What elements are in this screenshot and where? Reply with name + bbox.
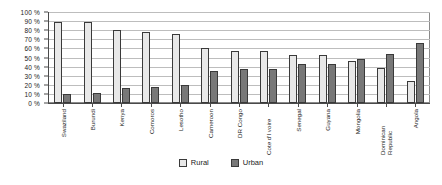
y-axis-tick-label: 20 %	[24, 81, 40, 88]
y-axis-tick-label: 50 %	[24, 54, 40, 61]
x-axis-tick-mark	[63, 104, 64, 107]
x-axis-tick-mark	[180, 104, 181, 107]
y-axis-tick-label: 40 %	[24, 63, 40, 70]
legend-label-urban: Urban	[243, 158, 263, 167]
x-axis-tick-mark	[386, 104, 387, 107]
bar-group	[48, 12, 77, 103]
bar-rural	[377, 68, 385, 103]
x-axis-label-cell: Lesotho	[166, 104, 195, 152]
x-axis-tick-mark	[298, 104, 299, 107]
x-axis-label-cell: Cote d'I voire	[254, 104, 283, 152]
y-axis-tick-label: 0 %	[28, 100, 40, 107]
x-axis-label-cell: Kenya	[107, 104, 136, 152]
x-axis-label-cell: DR Congo	[224, 104, 253, 152]
bar-rural	[407, 81, 415, 103]
bar-rural	[172, 34, 180, 103]
x-axis-tick-mark	[121, 104, 122, 107]
x-axis-tick-mark	[327, 104, 328, 107]
bar-rural	[201, 48, 209, 103]
y-axis-tick-label: 10 %	[24, 90, 40, 97]
x-axis-label-cell: Mongolia	[342, 104, 371, 152]
bar-group	[313, 12, 342, 103]
legend-label-rural: Rural	[191, 158, 209, 167]
x-axis-tick-mark	[210, 104, 211, 107]
bar-group	[342, 12, 371, 103]
x-axis-tick-label: Cameroon	[206, 109, 213, 138]
x-axis-tick-mark	[239, 104, 240, 107]
bar-rural	[319, 55, 327, 103]
y-axis: 0 %10 %20 %30 %40 %50 %60 %70 %80 %90 %1…	[0, 12, 48, 103]
bar-urban	[210, 71, 218, 103]
x-axis-tick-label: Senegal	[294, 109, 301, 132]
x-axis-tick-mark	[268, 104, 269, 107]
bar-urban	[386, 54, 394, 103]
x-axis-tick-label: Comoros	[147, 109, 154, 134]
x-axis-tick-label: Burundi	[89, 109, 96, 130]
legend-item-urban: Urban	[231, 158, 263, 167]
bar-urban	[328, 64, 336, 103]
x-axis-label-cell: Angola	[401, 104, 430, 152]
bar-rural	[289, 55, 297, 103]
bar-group	[224, 12, 253, 103]
bar-group	[107, 12, 136, 103]
x-axis-tick-mark	[92, 104, 93, 107]
bar-group	[77, 12, 106, 103]
bar-group	[166, 12, 195, 103]
x-axis-label-cell: Swaziland	[48, 104, 77, 152]
bar-rural	[113, 30, 121, 103]
bar-rural	[348, 61, 356, 103]
x-axis-tick-label: Angola	[412, 109, 419, 128]
y-axis-tick-label: 70 %	[24, 36, 40, 43]
x-axis-tick-label: Guyana	[324, 109, 331, 131]
x-axis-tick-label: Swaziland	[59, 109, 66, 137]
x-axis-tick-label: DR Congo	[236, 109, 243, 138]
bar-urban	[151, 87, 159, 103]
x-axis-tick-mark	[357, 104, 358, 107]
chart-legend: Rural Urban	[0, 158, 442, 167]
bar-urban	[181, 85, 189, 103]
bar-urban	[122, 88, 130, 103]
y-axis-tick-label: 30 %	[24, 72, 40, 79]
x-axis-label-cell: Senegal	[283, 104, 312, 152]
bar-series-layer	[48, 12, 430, 103]
y-axis-tick-label: 60 %	[24, 45, 40, 52]
legend-swatch-urban-icon	[231, 159, 239, 167]
x-axis-label-cell: Cameroon	[195, 104, 224, 152]
x-axis-category-labels: SwazilandBurundiKenyaComorosLesothoCamer…	[48, 104, 430, 152]
bar-urban	[93, 93, 101, 103]
bar-group	[136, 12, 165, 103]
x-axis-label-cell: Comoros	[136, 104, 165, 152]
x-axis-tick-label: Kenya	[118, 109, 125, 127]
x-axis-tick-label: Mongolia	[353, 109, 360, 134]
x-axis-tick-label: Lesotho	[177, 109, 184, 131]
x-axis-tick-mark	[415, 104, 416, 107]
bar-rural	[54, 22, 62, 103]
bar-group	[195, 12, 224, 103]
bar-group	[283, 12, 312, 103]
x-axis-label-cell: Dominican Republic	[371, 104, 400, 152]
x-axis-tick-mark	[151, 104, 152, 107]
bar-chart-figure: 0 %10 %20 %30 %40 %50 %60 %70 %80 %90 %1…	[0, 0, 442, 185]
bar-rural	[260, 51, 268, 103]
x-axis-label-cell: Burundi	[77, 104, 106, 152]
bar-urban	[63, 94, 71, 103]
legend-item-rural: Rural	[179, 158, 209, 167]
y-axis-tick-label: 100 %	[21, 9, 40, 16]
bar-urban	[240, 69, 248, 103]
bar-urban	[298, 64, 306, 103]
bar-urban	[269, 69, 277, 103]
bar-urban	[416, 43, 424, 103]
y-axis-tick-label: 90 %	[24, 18, 40, 25]
legend-swatch-rural-icon	[179, 159, 187, 167]
y-axis-tick-label: 80 %	[24, 27, 40, 34]
bar-group	[401, 12, 430, 103]
bar-rural	[84, 22, 92, 103]
bar-group	[254, 12, 283, 103]
bar-rural	[231, 51, 239, 103]
x-axis-tick-label: Dominican Republic	[379, 109, 393, 155]
x-axis-tick-label: Cote d'I voire	[265, 109, 272, 155]
bar-rural	[142, 32, 150, 103]
bar-urban	[357, 59, 365, 103]
bar-group	[371, 12, 400, 103]
x-axis-label-cell: Guyana	[313, 104, 342, 152]
